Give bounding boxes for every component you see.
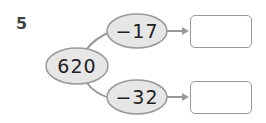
answer-box-top[interactable] bbox=[190, 15, 252, 48]
operation-ellipse-top: −17 bbox=[107, 14, 167, 48]
answer-box-bottom[interactable] bbox=[190, 81, 252, 114]
operation-ellipse-bottom: −32 bbox=[107, 80, 167, 114]
start-value-ellipse: 620 bbox=[46, 48, 108, 84]
